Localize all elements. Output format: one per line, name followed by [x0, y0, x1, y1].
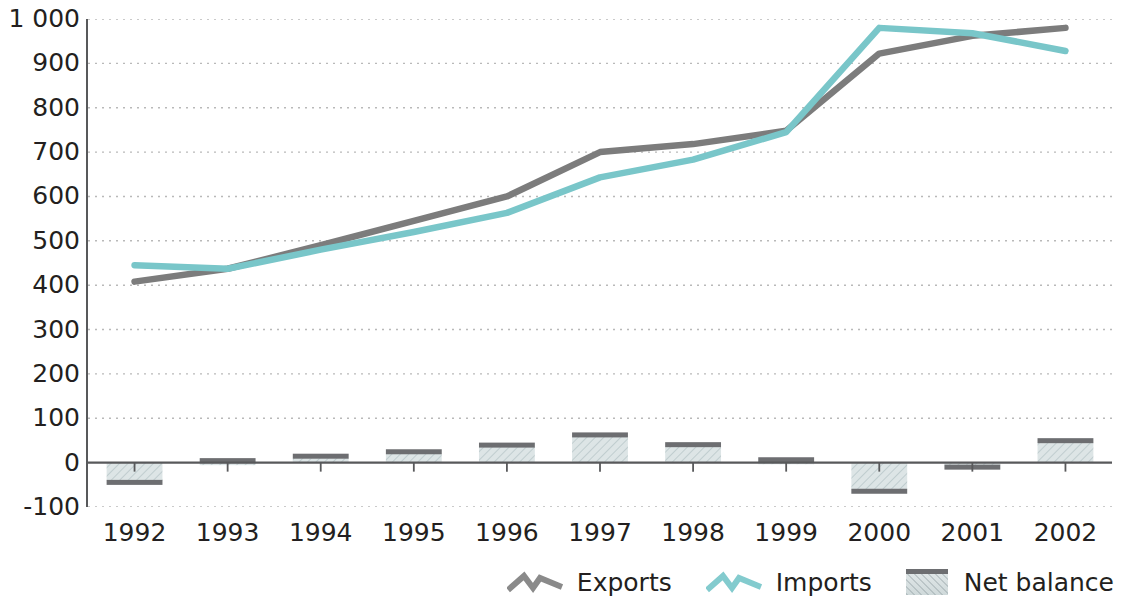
- x-axis-tick-label: 1999: [754, 518, 818, 547]
- x-axis-tick-label: 1996: [475, 518, 539, 547]
- y-axis-tick-label: 800: [0, 95, 80, 120]
- y-axis-tick-label: 0: [0, 450, 80, 475]
- y-axis-tick-label: 700: [0, 139, 80, 164]
- y-axis-tick-label: 300: [0, 317, 80, 342]
- y-axis-tick-label: 600: [0, 183, 80, 208]
- y-axis-tick-label: 500: [0, 228, 80, 253]
- bar: [1038, 438, 1094, 462]
- bar: [293, 454, 349, 463]
- x-axis-tick-label: 1998: [661, 518, 725, 547]
- y-axis-tick-label: 200: [0, 361, 80, 386]
- x-axis-tick-label: 2000: [847, 518, 911, 547]
- chart-canvas: [88, 19, 1112, 507]
- x-axis-tick-label: 2001: [941, 518, 1005, 547]
- x-axis-tick-label: 1997: [568, 518, 632, 547]
- line-exports: [135, 28, 1066, 282]
- bar: [386, 449, 442, 462]
- legend-item-exports[interactable]: Exports: [507, 568, 672, 596]
- imports-line-icon: [706, 568, 762, 596]
- y-axis-tick-label: 400: [0, 272, 80, 297]
- legend-label-imports: Imports: [776, 570, 872, 595]
- x-axis-tick-label: 1993: [196, 518, 260, 547]
- y-axis-tick-label: 900: [0, 50, 80, 75]
- exports-line-icon: [507, 568, 563, 596]
- y-axis-tick-label: 1 000: [0, 6, 80, 31]
- y-axis-tick-label: 100: [0, 405, 80, 430]
- x-axis-tick-label: 1995: [382, 518, 446, 547]
- y-axis-tick-label: -100: [0, 494, 80, 519]
- chart-container: 1 0009008007006005004003002001000-100 19…: [0, 0, 1122, 604]
- net-balance-swatch-icon: [906, 569, 948, 595]
- x-axis-tick-label: 2002: [1034, 518, 1098, 547]
- legend-item-imports[interactable]: Imports: [706, 568, 872, 596]
- legend-label-exports: Exports: [577, 570, 672, 595]
- legend-item-net-balance[interactable]: Net balance: [906, 569, 1114, 595]
- x-axis-tick-label: 1994: [289, 518, 353, 547]
- x-axis-tick-label: 1992: [103, 518, 167, 547]
- bar: [665, 442, 721, 462]
- y-axis-spine: [86, 19, 88, 507]
- legend-label-net-balance: Net balance: [964, 570, 1114, 595]
- bar: [572, 432, 628, 462]
- series-lines: [135, 28, 1066, 282]
- bar: [479, 443, 535, 463]
- chart-legend: Exports Imports Net balance: [0, 560, 1122, 604]
- plot-area: [88, 19, 1112, 507]
